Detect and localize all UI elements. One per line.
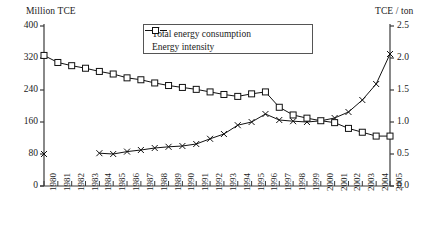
x-axis-tick-label: 1989	[173, 173, 183, 191]
chart-legend: Total energy consumption Energy intensit…	[143, 24, 313, 54]
legend-item-intensity: Energy intensity	[148, 40, 308, 53]
x-axis-tick-label: 1990	[186, 173, 196, 191]
chart-root: Million TCE TCE / ton Total energy consu…	[0, 0, 438, 232]
legend-symbol-square-marker	[144, 25, 168, 36]
x-axis-tick-label: 1984	[103, 173, 113, 191]
legend-label-intensity: Energy intensity	[152, 42, 214, 52]
y-axis-right-tick: 1.5	[397, 84, 409, 94]
y-axis-left-tick: 80	[2, 148, 38, 158]
y-axis-left-tick: 320	[2, 52, 38, 62]
y-axis-left-tick: 240	[2, 84, 38, 94]
y-axis-right-tick: 1.0	[397, 116, 409, 126]
x-axis-tick-label: 1986	[131, 173, 141, 191]
x-axis-tick-label: 2001	[339, 173, 349, 191]
x-axis-tick-label: 1985	[117, 173, 127, 191]
x-axis-tick-label: 1994	[242, 173, 252, 191]
x-axis-tick-label: 1996	[269, 173, 279, 191]
x-axis-tick-label: 2004	[380, 173, 390, 191]
x-axis-tick-label: 1995	[256, 173, 266, 191]
y-axis-left-tick: 400	[2, 20, 38, 30]
x-axis-tick-label: 1999	[311, 173, 321, 191]
y-axis-left-tick: 160	[2, 116, 38, 126]
x-axis-tick-label: 1987	[145, 173, 155, 191]
x-axis-tick-label: 2005	[394, 173, 404, 191]
x-axis-tick-label: 1983	[90, 173, 100, 191]
x-axis-tick-label: 1992	[214, 173, 224, 191]
x-axis-tick-label: 1988	[159, 173, 169, 191]
y-axis-right-tick: 2.5	[397, 20, 409, 30]
x-axis-tick-label: 1997	[283, 173, 293, 191]
y-axis-right-tick: 2.0	[397, 52, 409, 62]
legend-item-consumption: Total energy consumption	[148, 27, 308, 40]
x-axis-tick-label: 2000	[325, 173, 335, 191]
x-axis-tick-label: 1982	[76, 173, 86, 191]
x-axis-tick-label: 2003	[366, 173, 376, 191]
x-axis-tick-label: 1991	[200, 173, 210, 191]
x-axis-tick-label: 1998	[297, 173, 307, 191]
x-axis-tick-label: 2002	[352, 173, 362, 191]
x-axis-tick-label: 1981	[62, 173, 72, 191]
x-axis-tick-label: 1993	[228, 173, 238, 191]
x-axis-tick-label: 1980	[48, 173, 58, 191]
y-axis-left-tick: 0	[2, 180, 38, 190]
y-axis-right-tick: 0.5	[397, 148, 409, 158]
